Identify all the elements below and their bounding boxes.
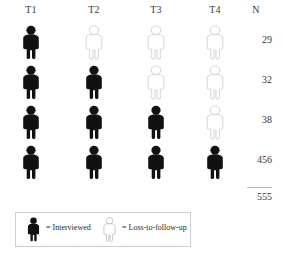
- person-filled-icon: [24, 217, 43, 242]
- attrition-pictogram-chart: T1 T2 T3 T4 N: [0, 0, 282, 258]
- column-header-t4: T4: [198, 4, 232, 15]
- cell-t3: [139, 144, 173, 182]
- person-outline-icon: [100, 217, 119, 242]
- cell-t4: [198, 104, 232, 142]
- person-filled-icon: [143, 145, 169, 180]
- table-row: 456: [0, 144, 282, 182]
- row-count-value: 38: [236, 114, 272, 125]
- cell-t1: [14, 144, 48, 182]
- row-count-value: 456: [236, 154, 272, 165]
- cell-t1: [14, 104, 48, 142]
- person-filled-icon: [18, 25, 44, 60]
- cell-t4: [198, 64, 232, 102]
- cell-t1: [14, 24, 48, 62]
- person-filled-icon: [18, 65, 44, 100]
- cell-t3: [139, 24, 173, 62]
- person-filled-icon: [81, 145, 107, 180]
- column-header-n: N: [241, 4, 271, 15]
- person-filled-icon: [18, 145, 44, 180]
- table-row: 29: [0, 24, 282, 62]
- cell-t3: [139, 64, 173, 102]
- person-outline-icon: [202, 25, 228, 60]
- person-filled-icon: [202, 145, 228, 180]
- cell-t1: [14, 64, 48, 102]
- person-outline-icon: [143, 65, 169, 100]
- person-outline-icon: [143, 25, 169, 60]
- row-count-value: 29: [236, 34, 272, 45]
- row-count-value: 32: [236, 74, 272, 85]
- column-header-t1: T1: [14, 4, 48, 15]
- person-outline-icon: [81, 25, 107, 60]
- cell-t2: [77, 144, 111, 182]
- column-header-t3: T3: [139, 4, 173, 15]
- cell-t3: [139, 104, 173, 142]
- total-separator-rule: [247, 187, 272, 188]
- cell-t2: [77, 64, 111, 102]
- person-filled-icon: [81, 105, 107, 140]
- person-filled-icon: [18, 105, 44, 140]
- total-count-value: 555: [236, 191, 272, 202]
- legend-box: = Interviewed = Loss-to-follow-up: [15, 212, 191, 247]
- cell-t4: [198, 24, 232, 62]
- person-filled-icon: [81, 65, 107, 100]
- cell-t2: [77, 24, 111, 62]
- legend-label-interviewed: = Interviewed: [46, 223, 91, 232]
- legend-label-loss-to-follow-up: = Loss-to-follow-up: [122, 223, 187, 232]
- person-outline-icon: [202, 105, 228, 140]
- cell-t2: [77, 104, 111, 142]
- column-header-row: T1 T2 T3 T4 N: [0, 0, 282, 22]
- table-row: 38: [0, 104, 282, 142]
- cell-t4: [198, 144, 232, 182]
- person-outline-icon: [202, 65, 228, 100]
- table-row: 32: [0, 64, 282, 102]
- column-header-t2: T2: [77, 4, 111, 15]
- person-filled-icon: [143, 105, 169, 140]
